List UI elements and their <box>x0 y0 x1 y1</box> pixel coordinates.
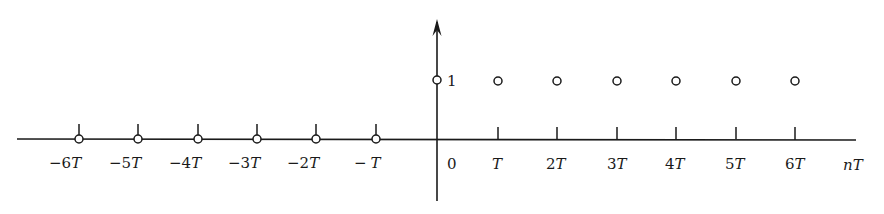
tick-label-pos1: T <box>492 155 503 173</box>
sample-marker-pos5 <box>732 77 740 85</box>
sample-marker-neg5 <box>134 135 142 143</box>
sample-marker-pos3 <box>613 77 621 85</box>
tick-label-pos3: 3T <box>607 155 628 173</box>
sample-marker-pos4 <box>672 77 680 85</box>
sample-marker-neg3 <box>253 135 261 143</box>
sample-marker-neg2 <box>312 135 320 143</box>
sample-marker-pos1 <box>494 77 502 85</box>
amplitude-label: 1 <box>447 72 457 90</box>
sample-marker-pos2 <box>553 77 561 85</box>
positive-ticks <box>498 127 795 140</box>
unit-step-sequence-diagram: 1 −6T −5T −4T −3T −2T −T 0 T 2T 3T 4T 5T… <box>0 0 884 214</box>
sample-marker-neg4 <box>194 135 202 143</box>
sample-marker-0 <box>433 76 441 84</box>
tick-label-pos6: 6T <box>785 155 806 173</box>
origin-label: 0 <box>447 155 457 173</box>
tick-label-neg6: −6T <box>49 154 82 172</box>
horizontal-axis-label: nT <box>843 156 864 174</box>
tick-label-pos4: 4T <box>665 155 686 173</box>
tick-label-neg4: −4T <box>169 154 202 172</box>
sample-marker-pos6 <box>791 77 799 85</box>
unit-samples <box>433 76 799 85</box>
tick-label-neg1: −T <box>354 154 382 172</box>
tick-label-pos5: 5T <box>725 155 746 173</box>
sample-marker-neg6 <box>75 135 83 143</box>
tick-label-pos2: 2T <box>546 155 567 173</box>
tick-label-neg5: −5T <box>109 154 142 172</box>
tick-label-neg3: −3T <box>228 154 261 172</box>
tick-label-neg2: −2T <box>287 154 320 172</box>
sample-marker-neg1 <box>372 135 380 143</box>
